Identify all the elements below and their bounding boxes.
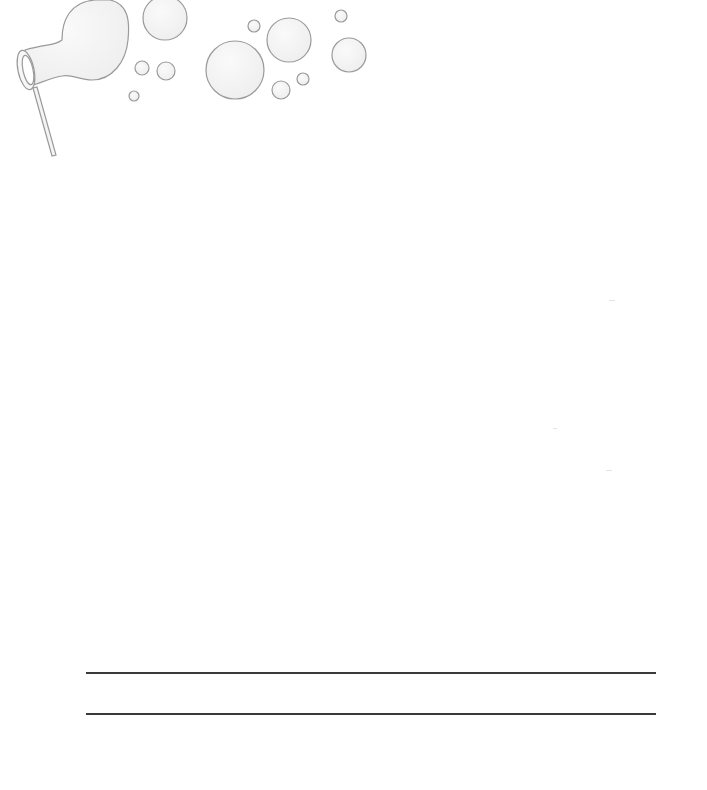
ruled-line-1 (86, 672, 656, 674)
scan-artifact (606, 470, 612, 471)
stationery-page (0, 0, 707, 790)
bubble-wand-icon (0, 0, 380, 170)
scan-artifact (553, 428, 557, 429)
ruled-line-2 (86, 713, 656, 715)
scan-artifact (609, 300, 615, 301)
